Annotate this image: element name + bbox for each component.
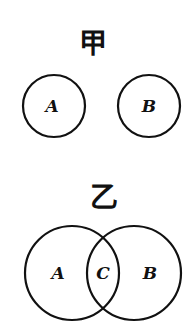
set-label-a: A	[49, 263, 64, 283]
set-label-a: A	[43, 96, 58, 116]
intersection-label-c: C	[96, 263, 110, 283]
figure-yi-overlapping-sets: A C B	[25, 226, 181, 320]
figure-jia-disjoint-sets: A B	[23, 75, 180, 137]
venn-diagram-canvas: A B A C B	[0, 0, 193, 336]
set-label-b: B	[141, 96, 156, 116]
set-label-b: B	[142, 263, 157, 283]
